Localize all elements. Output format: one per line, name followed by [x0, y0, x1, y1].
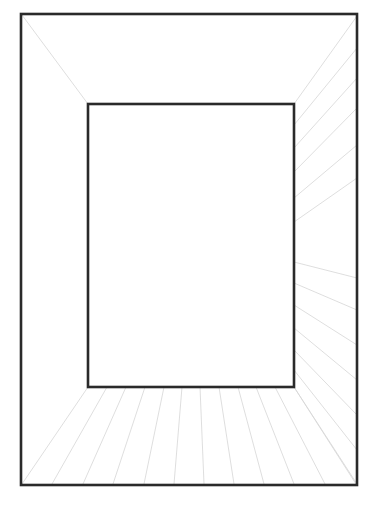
- floor-guide-line: [83, 387, 126, 484]
- floor-guide-line: [52, 387, 107, 484]
- floor-guide-line: [275, 387, 325, 484]
- wall-guide-line: [294, 283, 357, 310]
- floor-guide-line: [113, 387, 145, 484]
- ceiling-guide-line: [22, 15, 88, 104]
- right-wall-guide-lines: [294, 16, 357, 484]
- floor-guide-line: [238, 387, 264, 484]
- floor-guide-line: [200, 387, 204, 484]
- outer-frame-rectangle: [21, 14, 357, 485]
- wall-guide-line: [294, 262, 357, 278]
- ceiling-guide-lines: [22, 15, 88, 104]
- floor-guide-line: [22, 387, 88, 484]
- perspective-room-drawing: [0, 0, 379, 511]
- inner-back-wall-rectangle: [88, 104, 294, 387]
- floor-guide-lines: [22, 387, 356, 484]
- wall-guide-line: [294, 178, 357, 222]
- wall-guide-line: [294, 145, 357, 198]
- wall-guide-line: [294, 108, 357, 172]
- floor-guide-line: [174, 387, 182, 484]
- floor-guide-line: [256, 387, 294, 484]
- floor-guide-line: [144, 387, 164, 484]
- wall-guide-line: [294, 305, 357, 345]
- floor-guide-line: [294, 387, 356, 484]
- floor-guide-line: [219, 387, 234, 484]
- wall-guide-line: [294, 328, 357, 380]
